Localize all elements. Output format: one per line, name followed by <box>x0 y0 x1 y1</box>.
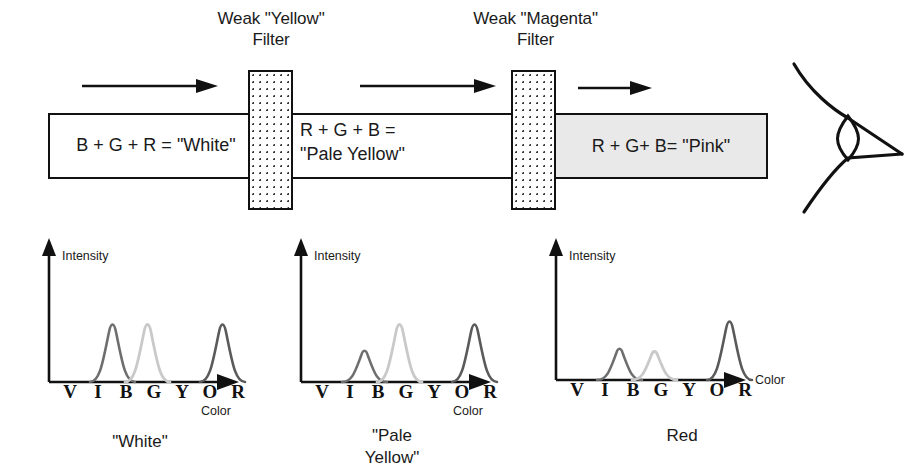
tick-g: G <box>392 381 420 403</box>
beam-pale-yellow-label: R + G + B = "Pale Yellow" <box>300 118 510 166</box>
tick-i: I <box>84 381 112 403</box>
tick-i: I <box>336 381 364 403</box>
chart-white-ylabel: Intensity <box>62 249 109 263</box>
beam-pink-label: R + G+ B= "Pink" <box>560 134 762 158</box>
chart-white-caption: "White" <box>40 431 240 453</box>
tick-b: B <box>112 381 140 403</box>
arrow-incident <box>82 79 218 93</box>
tick-o: O <box>196 381 224 403</box>
chart-white-xlabel: Color <box>201 404 231 418</box>
chart-pale-yellow-caption: "Pale Yellow" <box>292 425 492 469</box>
beam-white-label: B + G + R = "White" <box>58 133 254 157</box>
chart-red-ylabel: Intensity <box>569 249 616 263</box>
tick-g: G <box>647 379 675 401</box>
yellow-filter-plate <box>248 70 293 210</box>
tick-b: B <box>364 381 392 403</box>
tick-r: R <box>224 381 252 403</box>
chart-spectrum-white: Intensity V I B G Y O R Color "White" <box>20 236 270 476</box>
chart-spectrum-red: Intensity V I B G Y O R Color Red <box>527 236 817 476</box>
eye-icon <box>790 58 920 218</box>
chart-pale-yellow-xticks: V I B G Y O R <box>308 381 504 403</box>
tick-i: I <box>591 379 619 401</box>
tick-v: V <box>56 381 84 403</box>
tick-r: R <box>476 381 504 403</box>
tick-g: G <box>140 381 168 403</box>
chart-spectrum-pale-yellow: Intensity V I B G Y O R Color "Pale Yell… <box>272 236 522 476</box>
arrow-middle <box>360 79 496 93</box>
chart-red-caption: Red <box>582 425 782 447</box>
tick-y: Y <box>420 381 448 403</box>
chart-white-xticks: V I B G Y O R <box>56 381 252 403</box>
arrow-exit <box>578 81 652 95</box>
figure-canvas: Weak "Yellow" Filter Weak "Magenta" Filt… <box>0 0 920 476</box>
tick-y: Y <box>675 379 703 401</box>
tick-o: O <box>703 379 731 401</box>
tick-b: B <box>619 379 647 401</box>
tick-v: V <box>308 381 336 403</box>
magenta-filter-plate <box>511 70 556 210</box>
tick-y: Y <box>168 381 196 403</box>
chart-pale-yellow-ylabel: Intensity <box>314 249 361 263</box>
chart-red-xticks: V I B G Y O R <box>563 379 759 401</box>
tick-v: V <box>563 379 591 401</box>
chart-pale-yellow-xlabel: Color <box>453 404 483 418</box>
tick-o: O <box>448 381 476 403</box>
chart-red-xlabel: Color <box>755 373 785 387</box>
